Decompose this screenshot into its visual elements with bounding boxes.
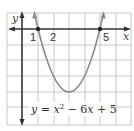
- root-point-5: [98, 27, 102, 31]
- y-axis-label: y: [11, 12, 19, 25]
- x-tick-2: 2: [50, 31, 56, 43]
- parabola-graph: y x 1 2 5 y = x2 − 6x + 5: [0, 0, 134, 131]
- equation-label: y = x2 − 6x + 5: [30, 103, 117, 116]
- x-tick-1: 1: [30, 31, 36, 43]
- x-axis-label: x: [123, 30, 130, 43]
- x-tick-5: 5: [103, 31, 109, 43]
- curve-right-arrow-icon: [101, 11, 106, 19]
- x-axis-left-arrow-icon: [8, 27, 15, 32]
- y-axis-up-arrow-icon: [20, 11, 25, 18]
- root-point-1: [36, 27, 40, 31]
- curve-left-arrow-icon: [32, 11, 37, 19]
